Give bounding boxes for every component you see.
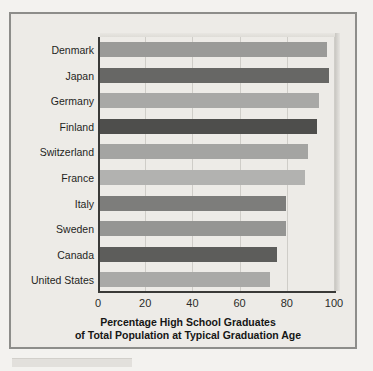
x-tick-label-40: 40 xyxy=(186,297,198,309)
bar-france[interactable] xyxy=(100,170,305,185)
caption-line-1: Percentage High School Graduates xyxy=(43,316,333,329)
bar-row xyxy=(100,114,335,140)
bar-row xyxy=(100,242,335,268)
scan-edge-artifact xyxy=(12,358,132,367)
bar-switzerland[interactable] xyxy=(100,144,308,159)
category-label-switzerland: Switzerland xyxy=(40,146,94,158)
category-label-finland: Finland xyxy=(60,121,94,133)
category-label-italy: Italy xyxy=(75,198,94,210)
x-tick-label-0: 0 xyxy=(95,297,101,309)
category-label-germany: Germany xyxy=(51,95,94,107)
bar-united-states[interactable] xyxy=(100,272,270,287)
bar-row xyxy=(100,191,335,217)
x-axis-line xyxy=(98,291,336,293)
bar-row xyxy=(100,139,335,165)
plot-right-shading xyxy=(335,33,340,291)
figure-frame: Denmark Japan Germany Finland Switzerlan… xyxy=(9,12,357,349)
x-tick-label-100: 100 xyxy=(325,297,343,309)
caption-line-2: of Total Population at Typical Graduatio… xyxy=(43,329,333,342)
bar-sweden[interactable] xyxy=(100,221,286,236)
bar-canada[interactable] xyxy=(100,247,277,262)
bar-finland[interactable] xyxy=(100,119,317,134)
bar-chart-plot-area: 0 20 40 60 80 100 xyxy=(98,37,335,293)
category-label-denmark: Denmark xyxy=(51,44,94,56)
category-label-japan: Japan xyxy=(65,70,94,82)
bar-row xyxy=(100,165,335,191)
chart-caption: Percentage High School Graduates of Tota… xyxy=(43,316,333,342)
bar-row xyxy=(100,88,335,114)
category-label-france: France xyxy=(61,172,94,184)
x-tick-label-20: 20 xyxy=(139,297,151,309)
category-axis-labels: Denmark Japan Germany Finland Switzerlan… xyxy=(31,37,94,293)
category-label-canada: Canada xyxy=(57,249,94,261)
bar-italy[interactable] xyxy=(100,196,286,211)
scanned-page-background: Denmark Japan Germany Finland Switzerlan… xyxy=(0,0,373,371)
x-tick-label-60: 60 xyxy=(233,297,245,309)
bar-row xyxy=(100,37,335,63)
bar-row xyxy=(100,267,335,293)
bar-row xyxy=(100,63,335,89)
bar-germany[interactable] xyxy=(100,93,319,108)
bar-japan[interactable] xyxy=(100,68,329,83)
bar-denmark[interactable] xyxy=(100,42,327,57)
category-label-united-states: United States xyxy=(31,274,94,286)
figure-panel: Denmark Japan Germany Finland Switzerlan… xyxy=(13,16,353,345)
x-tick-label-80: 80 xyxy=(281,297,293,309)
y-axis-line xyxy=(98,37,100,293)
category-label-sweden: Sweden xyxy=(56,223,94,235)
bar-row xyxy=(100,216,335,242)
